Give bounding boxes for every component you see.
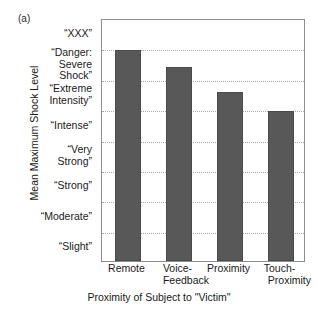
y-axis-tick-label: “XXX” xyxy=(0,28,92,40)
plot-area xyxy=(101,19,305,262)
figure-panel: (a) Mean Maximum Shock Level “Slight”“Mo… xyxy=(0,0,318,312)
x-axis-tick-labels: RemoteVoice-FeedbackProximityTouch-Proxi… xyxy=(101,263,305,289)
y-axis-tick-label: “Moderate” xyxy=(0,211,92,223)
bar xyxy=(268,111,294,261)
y-axis-tick-labels: “Slight”“Moderate”“Strong”“VeryStrong”“I… xyxy=(0,19,97,262)
x-axis-tick-label: Touch-Proximity xyxy=(248,263,311,286)
y-axis-tick-label: “Strong” xyxy=(0,180,92,192)
y-axis-tick-label: “Danger:SevereShock” xyxy=(0,47,92,82)
y-axis-tick-label: “Slight” xyxy=(0,241,92,253)
bar xyxy=(166,67,192,261)
bar xyxy=(115,50,141,261)
y-axis-tick-label: “Intense” xyxy=(0,120,92,132)
plot-inner xyxy=(102,20,304,261)
bar xyxy=(217,92,243,261)
y-axis-tick-label: “VeryStrong” xyxy=(0,144,92,167)
y-axis-tick-label: “ExtremeIntensity” xyxy=(0,83,92,106)
x-axis-title: Proximity of Subject to "Victim" xyxy=(0,291,318,303)
